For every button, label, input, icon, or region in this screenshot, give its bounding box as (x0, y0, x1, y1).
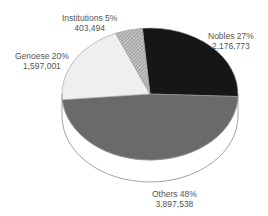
label-institutions-value: 403,494 (62, 23, 117, 33)
label-others: Others 48% 3,897,538 (152, 189, 197, 209)
label-nobles-name: Nobles 27% (208, 31, 254, 41)
label-genoese: Genoese 20% 1,597,001 (15, 51, 69, 71)
label-genoese-name: Genoese 20% (15, 51, 69, 61)
label-institutions: Institutions 5% 403,494 (62, 13, 117, 33)
label-genoese-value: 1,597,001 (15, 61, 69, 71)
label-institutions-name: Institutions 5% (62, 13, 117, 23)
label-others-name: Others 48% (152, 189, 197, 199)
label-others-value: 3,897,538 (152, 199, 197, 209)
label-nobles: Nobles 27% 2,176,773 (208, 31, 254, 51)
label-nobles-value: 2,176,773 (208, 41, 254, 51)
